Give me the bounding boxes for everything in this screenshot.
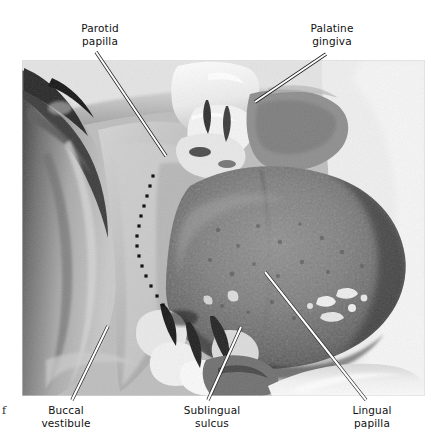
oral-cavity-photograph <box>22 60 425 396</box>
label-buccal-vestibule: Buccal vestibule <box>6 404 126 430</box>
label-lingual-papilla-line2: papilla <box>312 417 432 430</box>
label-parotid-papilla-line2: papilla <box>0 35 200 48</box>
label-lingual-papilla: Lingual papilla <box>312 404 432 430</box>
label-parotid-papilla-line1: Parotid <box>81 22 119 34</box>
photo-content <box>22 60 425 396</box>
label-lingual-papilla-line1: Lingual <box>352 404 391 416</box>
label-buccal-vestibule-line2: vestibule <box>6 417 126 430</box>
label-sublingual-sulcus-line2: sulcus <box>152 417 272 430</box>
label-parotid-papilla: Parotid papilla <box>0 22 200 48</box>
label-palatine-gingiva-line1: Palatine <box>311 22 354 34</box>
label-sublingual-sulcus: Sublingual sulcus <box>152 404 272 430</box>
label-palatine-gingiva-line2: gingiva <box>232 35 432 48</box>
label-sublingual-sulcus-line1: Sublingual <box>184 404 241 416</box>
label-palatine-gingiva: Palatine gingiva <box>232 22 432 48</box>
label-buccal-vestibule-line1: Buccal <box>48 404 84 416</box>
photograph-canvas <box>22 60 425 396</box>
caption-fragment: f <box>2 404 6 417</box>
film-grain <box>22 60 425 396</box>
anatomy-figure: Parotid papilla Palatine gingiva Buccal … <box>0 0 441 436</box>
